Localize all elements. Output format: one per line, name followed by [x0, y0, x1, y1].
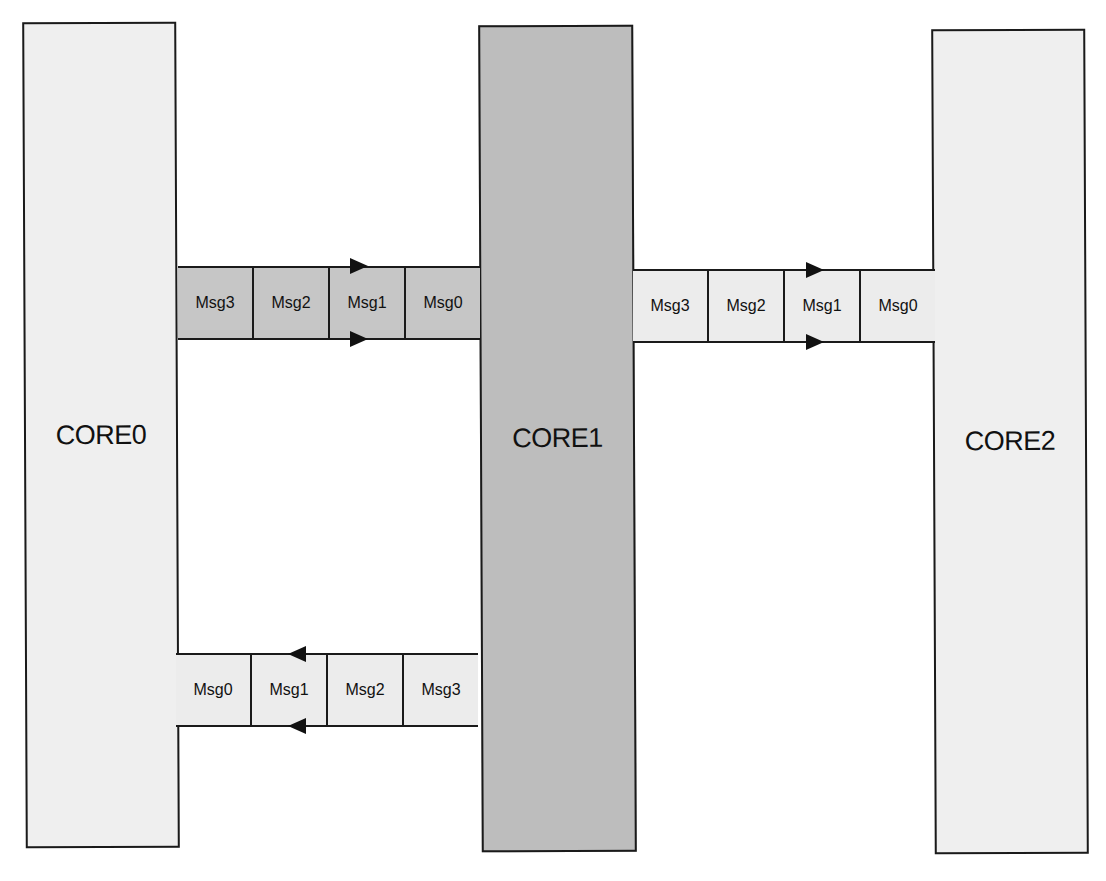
queue-cell: Msg3: [178, 268, 254, 338]
arrow-right-icon: [806, 262, 824, 278]
queue-cell: Msg2: [709, 271, 785, 341]
arrow-right-icon: [806, 334, 824, 350]
core1-block: CORE1: [478, 25, 637, 853]
queue-core0-to-core1: Msg3 Msg2 Msg1 Msg0: [178, 266, 480, 340]
queue-cell: Msg3: [404, 655, 478, 725]
queue-cell: Msg2: [254, 268, 330, 338]
queue-core1-to-core2: Msg3 Msg2 Msg1 Msg0: [633, 269, 935, 343]
queue-cell: Msg0: [406, 268, 480, 338]
queue-cell: Msg1: [330, 268, 406, 338]
core0-label: CORE0: [56, 419, 147, 450]
queue-cell: Msg3: [633, 271, 709, 341]
core1-label: CORE1: [512, 423, 603, 454]
arrow-right-icon: [350, 258, 368, 274]
arrow-left-icon: [288, 646, 306, 662]
queue-cell: Msg0: [176, 655, 252, 725]
queue-cell: Msg1: [252, 655, 328, 725]
queue-cell: Msg2: [328, 655, 404, 725]
arrow-left-icon: [288, 718, 306, 734]
queue-cell: Msg1: [785, 271, 861, 341]
core0-block: CORE0: [22, 22, 180, 849]
core2-label: CORE2: [965, 426, 1056, 457]
arrow-right-icon: [350, 331, 368, 347]
queue-core1-to-core0: Msg0 Msg1 Msg2 Msg3: [176, 653, 478, 727]
queue-cell: Msg0: [861, 271, 935, 341]
core2-block: CORE2: [931, 29, 1089, 855]
